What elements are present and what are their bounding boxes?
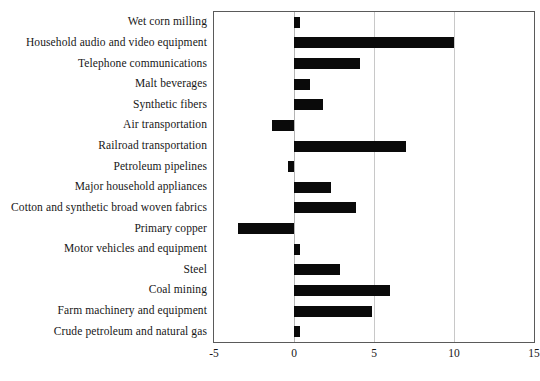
category-labels-axis: Wet corn millingHousehold audio and vide…	[0, 0, 207, 340]
category-label: Air transportation	[0, 118, 207, 130]
bar	[294, 202, 356, 213]
category-label: Farm machinery and equipment	[0, 304, 207, 316]
bar	[288, 161, 294, 172]
plot-area	[213, 11, 535, 343]
bar	[294, 326, 300, 337]
x-tick-label: 0	[291, 346, 297, 360]
category-label: Crude petroleum and natural gas	[0, 325, 207, 337]
bar	[294, 37, 454, 48]
x-tick-label: 10	[448, 346, 460, 360]
x-tick-label: 15	[528, 346, 540, 360]
category-label: Major household appliances	[0, 180, 207, 192]
category-label: Synthetic fibers	[0, 98, 207, 110]
bar	[294, 264, 340, 275]
bar	[294, 79, 310, 90]
category-label: Steel	[0, 263, 207, 275]
bar	[294, 58, 360, 69]
gridline	[454, 12, 455, 342]
x-axis-tick-labels: -5051015	[213, 346, 534, 366]
category-label: Motor vehicles and equipment	[0, 242, 207, 254]
category-label: Household audio and video equipment	[0, 36, 207, 48]
plot-inner	[214, 12, 534, 342]
category-label: Telephone communications	[0, 57, 207, 69]
bar	[294, 244, 300, 255]
category-label: Primary copper	[0, 222, 207, 234]
x-tick-label: 5	[371, 346, 377, 360]
bar	[294, 182, 331, 193]
bar	[238, 223, 294, 234]
category-label: Malt beverages	[0, 77, 207, 89]
category-label: Railroad transportation	[0, 139, 207, 151]
bar	[294, 17, 300, 28]
category-label: Wet corn milling	[0, 15, 207, 27]
bar	[294, 306, 372, 317]
bar	[294, 285, 390, 296]
category-label: Petroleum pipelines	[0, 160, 207, 172]
category-label: Coal mining	[0, 283, 207, 295]
category-label: Cotton and synthetic broad woven fabrics	[0, 201, 207, 213]
bar	[294, 99, 323, 110]
bar	[272, 120, 294, 131]
x-tick-label: -5	[209, 346, 219, 360]
bar	[294, 141, 406, 152]
